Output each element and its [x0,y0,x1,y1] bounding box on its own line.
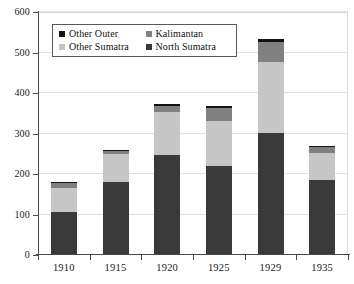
y-tick-300 [33,134,38,135]
y-tick-label-300: 300 [0,129,30,139]
bar-segment-1929-other-sumatra [258,62,284,133]
bar-segment-1935-kalimantan [309,147,335,152]
y-axis-line [38,11,39,256]
x-tick-1 [90,255,91,260]
legend-swatch-icon [146,31,152,37]
y-tick-100 [33,215,38,216]
gridline-300 [38,133,348,134]
legend-swatch-icon [146,44,152,50]
bar-segment-1920-kalimantan [154,106,180,112]
bar-segment-1910-kalimantan [51,183,77,188]
x-tick-0 [38,255,39,260]
bar-segment-1920-other-sumatra [154,112,180,155]
x-tick-3 [193,255,194,260]
bar-segment-1935-north-sumatra [309,180,335,255]
y-tick-label-600: 600 [0,7,30,17]
y-tick-label-100: 100 [0,210,30,220]
bar-1910 [51,182,77,255]
legend-label: Other Sumatra [69,42,129,52]
legend-item-kalimantan[interactable]: Kalimantan [146,29,231,39]
bar-segment-1915-north-sumatra [103,182,129,255]
x-tick-label-1910: 1910 [38,263,90,274]
x-tick-label-1915: 1915 [90,263,142,274]
legend-label: Other Outer [69,29,118,39]
legend-item-north-sumatra[interactable]: North Sumatra [146,42,231,52]
gridline-200 [38,173,348,174]
x-tick-2 [141,255,142,260]
bar-segment-1920-other-outer [154,104,180,106]
bar-segment-1925-other-outer [206,106,232,108]
x-tick-5 [296,255,297,260]
bar-segment-1915-other-sumatra [103,154,129,182]
chart-legend: Other OuterKalimantanOther SumatraNorth … [52,24,237,57]
y-tick-500 [33,53,38,54]
legend-label: Kalimantan [156,29,204,39]
y-tick-label-500: 500 [0,48,30,58]
y-tick-400 [33,93,38,94]
x-tick-label-1935: 1935 [296,263,348,274]
bar-segment-1910-other-sumatra [51,188,77,211]
bar-segment-1925-north-sumatra [206,166,232,255]
legend-label: North Sumatra [156,42,216,52]
bar-1920 [154,104,180,255]
y-tick-label-400: 400 [0,88,30,98]
bar-segment-1910-north-sumatra [51,212,77,255]
legend-item-other-sumatra[interactable]: Other Sumatra [59,42,144,52]
x-tick-6 [348,255,349,260]
bar-segment-1929-kalimantan [258,42,284,61]
legend-item-other-outer[interactable]: Other Outer [59,29,144,39]
bar-segment-1915-kalimantan [103,151,129,154]
x-tick-label-1925: 1925 [193,263,245,274]
bar-segment-1925-kalimantan [206,108,232,121]
x-tick-label-1929: 1929 [245,263,297,274]
stacked-bar-chart: 0100200300400500600 19101915192019251929… [0,0,354,284]
gridline-600 [38,11,348,12]
bar-segment-1935-other-sumatra [309,153,335,181]
y-tick-label-200: 200 [0,169,30,179]
y-tick-600 [33,12,38,13]
legend-swatch-icon [59,31,65,37]
legend-swatch-icon [59,44,65,50]
bar-1915 [103,150,129,255]
x-tick-4 [245,255,246,260]
bar-segment-1929-north-sumatra [258,133,284,255]
bar-segment-1935-other-outer [309,146,335,147]
bar-segment-1929-other-outer [258,39,284,43]
bar-segment-1915-other-outer [103,150,129,151]
bar-1925 [206,106,232,255]
x-tick-label-1920: 1920 [141,263,193,274]
bar-segment-1925-other-sumatra [206,121,232,166]
gridline-100 [38,214,348,215]
bar-1929 [258,39,284,255]
y-tick-200 [33,174,38,175]
bar-segment-1910-other-outer [51,182,77,184]
gridline-400 [38,92,348,93]
y-tick-label-0: 0 [0,250,30,260]
bar-segment-1920-north-sumatra [154,155,180,255]
bar-1935 [309,146,335,255]
